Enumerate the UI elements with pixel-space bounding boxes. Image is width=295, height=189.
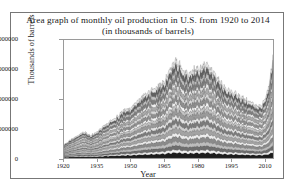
chart-title-line-1: Area graph of monthly oil production in … — [11, 15, 285, 26]
x-tick-mark — [63, 159, 64, 162]
chart-title: Area graph of monthly oil production in … — [11, 15, 285, 37]
plot-inner — [64, 40, 273, 158]
x-tick-label: 2010 — [245, 162, 285, 169]
x-tick-mark — [198, 159, 199, 162]
x-tick-mark — [97, 159, 98, 162]
plot-area — [63, 39, 274, 159]
x-tick-mark — [231, 159, 232, 162]
x-axis-label: Year — [11, 170, 285, 179]
y-axis-label: Thousands of barrels — [27, 0, 36, 105]
x-tick-mark — [130, 159, 131, 162]
figure-panel: Area graph of monthly oil production in … — [10, 12, 284, 179]
chart-title-line-2: (in thousands of barrels) — [11, 26, 285, 37]
y-tick-label: 2000000 — [0, 96, 18, 102]
x-tick-mark — [164, 159, 165, 162]
x-tick-mark — [265, 159, 266, 162]
stacked-area-series — [64, 40, 273, 158]
y-tick-label: 0 — [0, 156, 18, 162]
y-tick-label: 4000000 — [0, 36, 18, 42]
y-tick-label: 3000000 — [0, 66, 18, 72]
y-tick-label: 1000000 — [0, 126, 18, 132]
